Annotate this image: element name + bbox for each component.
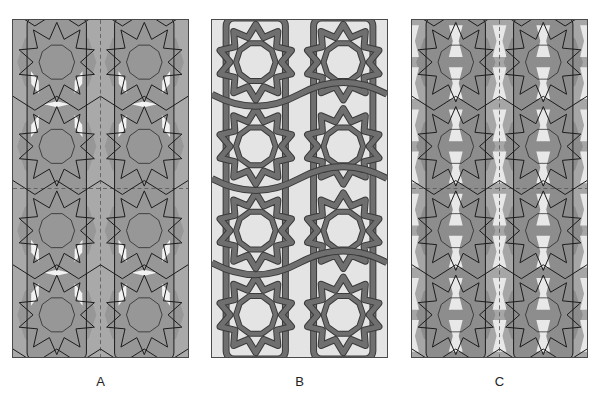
panel-a-label: A [12,374,189,389]
panel-b-interlace [211,19,388,358]
motif [13,20,188,357]
panel-b-label: B [211,374,388,389]
panel-c-shaded [411,19,588,358]
motif [412,20,587,357]
strapwork [212,20,387,357]
panel-a-construction [12,19,189,358]
panel-c-label: C [411,374,588,389]
